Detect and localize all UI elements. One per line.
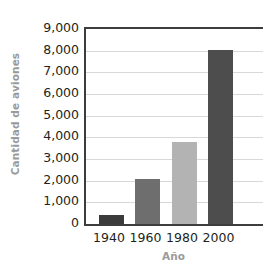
bar-chart-figure: Cantidad de aviones 01,0002,0003,0004,00…: [0, 0, 263, 270]
y-axis-tick-label: 9,000: [43, 20, 79, 35]
bar: [135, 179, 160, 225]
y-axis-tick-labels: 01,0002,0003,0004,0005,0006,0007,0008,00…: [30, 0, 83, 232]
y-axis-tick-label: 6,000: [43, 85, 79, 100]
y-axis-tick-label: 2,000: [43, 171, 79, 186]
y-axis-tick-label: 3,000: [43, 150, 79, 165]
x-axis-tick-label: 1940: [93, 230, 125, 245]
y-axis-tick-label: 1,000: [43, 193, 79, 208]
bar: [99, 215, 124, 224]
plot-area: [84, 27, 263, 226]
x-axis-title: Año: [84, 250, 263, 262]
y-axis-tick-label: 5,000: [43, 106, 79, 121]
bar: [208, 50, 233, 224]
y-axis-title-text: Cantidad de aviones: [9, 53, 21, 175]
bar-series: [86, 29, 263, 224]
bar: [172, 142, 197, 224]
y-axis-tick-label: 7,000: [43, 63, 79, 78]
y-axis-tick-label: 8,000: [43, 41, 79, 56]
x-axis-tick-label: 1980: [166, 230, 198, 245]
x-axis-tick-label: 2000: [203, 230, 235, 245]
x-axis-tick-labels: 1940196019802000: [84, 230, 263, 250]
y-axis-tick-label: 0: [71, 215, 79, 230]
x-axis-tick-label: 1960: [130, 230, 162, 245]
y-axis-title: Cantidad de aviones: [0, 0, 30, 228]
y-axis-tick-label: 4,000: [43, 128, 79, 143]
